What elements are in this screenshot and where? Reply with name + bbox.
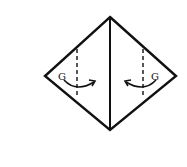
right-label: G: [151, 71, 159, 82]
origami-diagram: G G: [0, 0, 187, 167]
left-label: G: [58, 71, 66, 82]
left-fold-arrow-icon: [64, 80, 94, 87]
